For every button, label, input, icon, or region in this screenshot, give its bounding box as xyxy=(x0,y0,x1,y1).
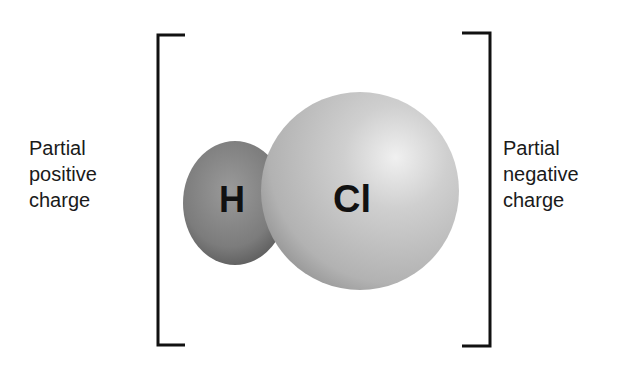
right-bracket xyxy=(462,33,490,346)
chlorine-atom: Cl xyxy=(261,92,459,290)
hydrogen-symbol: H xyxy=(219,179,245,220)
left-bracket xyxy=(158,35,185,345)
hcl-molecule-diagram: H Cl xyxy=(0,0,620,365)
chlorine-symbol: Cl xyxy=(333,178,371,220)
